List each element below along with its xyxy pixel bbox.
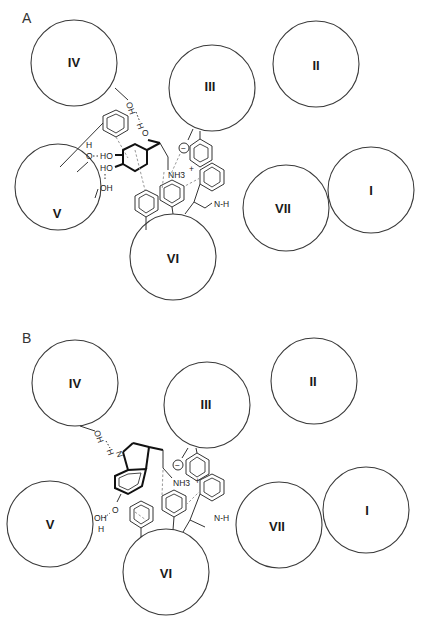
atom-h: H (86, 140, 92, 150)
site-label: IV (69, 376, 82, 391)
receptor-binding-diagram: A IV III II V VII I VI OH H O H O HO (0, 0, 427, 626)
site-label: II (312, 58, 319, 73)
atom-oh: OH (100, 183, 113, 193)
site-label: VII (269, 519, 285, 534)
atom-o: O (142, 128, 149, 138)
site-vii-b: VII (236, 482, 322, 568)
atom-nh: N-H (214, 199, 229, 209)
site-iii-b: III (164, 362, 250, 448)
site-ii-a: II (273, 21, 359, 107)
site-ii-b: II (271, 338, 357, 424)
site-vi-a: VI (130, 214, 216, 300)
panel-label-b: B (22, 330, 31, 346)
site-label: II (309, 374, 316, 389)
panel-label-a: A (22, 10, 32, 26)
site-label: VII (275, 201, 291, 216)
site-label: III (205, 79, 216, 94)
site-label: V (53, 206, 62, 221)
atom-minus: − (175, 460, 180, 470)
atom-ho: HO (100, 151, 113, 161)
atom-o: O (112, 505, 119, 515)
atom-minus: − (181, 143, 186, 153)
site-label: III (201, 397, 212, 412)
site-i-b: I (323, 467, 409, 553)
site-iv-b: IV (32, 340, 118, 426)
ligand-structure-a: OH H O H O HO HO OH (60, 88, 229, 230)
site-label: I (365, 503, 369, 518)
atom-o: O (86, 151, 93, 161)
site-v-b: V (7, 481, 93, 567)
site-label: IV (68, 55, 81, 70)
atom-plus: + (189, 164, 194, 174)
atom-oh: OH (94, 513, 107, 523)
site-label: I (369, 183, 373, 198)
negative-charge-icon: − (179, 143, 189, 153)
site-iii-a: III (169, 45, 255, 131)
site-iv-a: IV (31, 20, 117, 106)
atom-oh: OH (124, 101, 138, 116)
atom-h: H (98, 524, 104, 534)
panel-b: B IV III II V VII I VI OH H N O (7, 330, 409, 615)
atom-nh: N-H (214, 513, 229, 523)
site-vii-a: VII (243, 165, 329, 251)
site-label: V (46, 517, 55, 532)
site-vi-b: VI (123, 529, 209, 615)
atom-nh3: NH3 (173, 478, 190, 488)
atom-ho: HO (100, 163, 113, 173)
ligand-structure-b: OH H N O NH3 + OH H − (80, 426, 229, 537)
site-i-a: I (328, 147, 414, 233)
panel-a: A IV III II V VII I VI OH H O H O HO (15, 10, 414, 300)
site-label: VI (167, 251, 179, 266)
site-label: VI (160, 566, 172, 581)
atom-oh: OH (92, 429, 106, 444)
negative-charge-icon: − (173, 460, 183, 470)
